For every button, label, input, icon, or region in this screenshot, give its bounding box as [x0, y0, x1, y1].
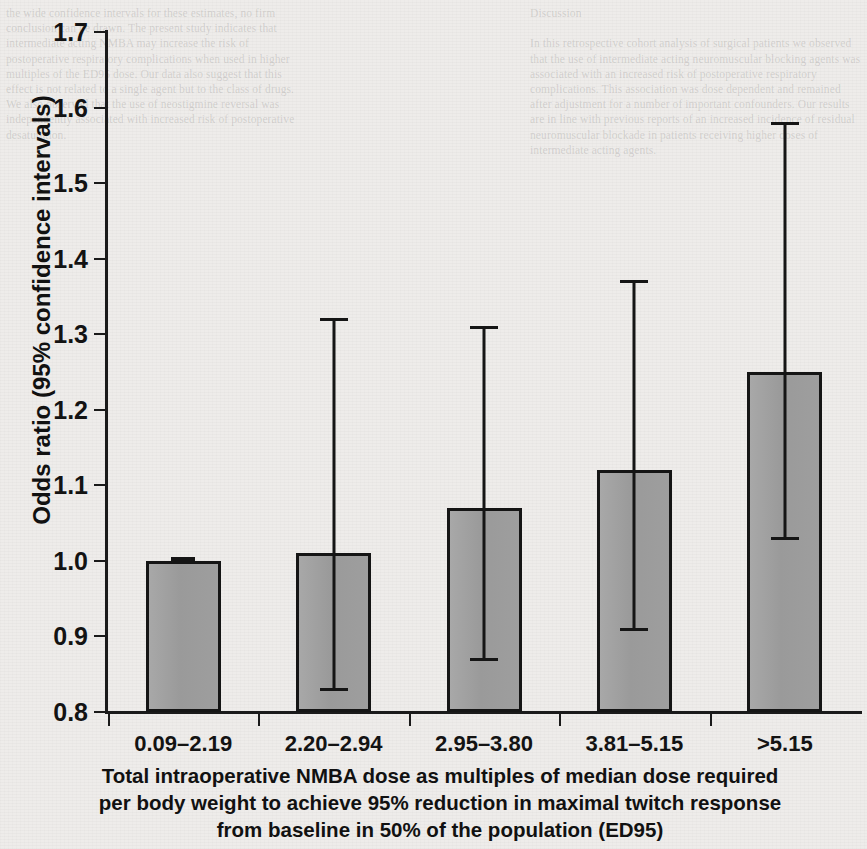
x-axis-tick-label: 0.09–2.19: [108, 731, 258, 757]
confidence-interval-lower-cap: [620, 628, 648, 631]
y-axis-tick: [94, 409, 106, 411]
x-axis-tick: [710, 713, 712, 726]
x-axis-caption-line: per body weight to achieve 95% reduction…: [60, 789, 820, 816]
confidence-interval-lower-cap: [320, 688, 348, 691]
y-axis-tick: [94, 182, 106, 184]
y-axis-tick: [94, 560, 106, 562]
confidence-interval-upper-cap: [320, 318, 348, 321]
confidence-interval-lower-cap: [771, 537, 799, 540]
y-axis-tick: [94, 333, 106, 335]
x-axis-caption-line: Total intraoperative NMBA dose as multip…: [60, 762, 820, 789]
y-axis-tick: [94, 484, 106, 486]
reference-marker: [171, 557, 195, 562]
y-axis-tick: [94, 258, 106, 260]
y-axis-tick: [94, 107, 106, 109]
y-axis-tick-label: 0.9: [0, 622, 88, 651]
x-axis-tick: [559, 713, 561, 726]
confidence-interval-lower-cap: [470, 658, 498, 661]
x-axis-tick: [258, 713, 260, 726]
y-axis-title: Odds ratio (95% confidence intervals): [28, 30, 56, 590]
y-axis-tick: [94, 635, 106, 637]
x-axis-tick: [409, 713, 411, 726]
odds-ratio-bar-chart: 1.71.61.51.41.31.21.11.00.90.8 0.09–2.19…: [0, 0, 867, 849]
x-axis-tick-label: 3.81–5.15: [559, 731, 709, 757]
x-axis-tick: [108, 713, 110, 726]
y-axis-tick-label: 0.8: [0, 698, 88, 727]
x-axis-caption-line: from baseline in 50% of the population (…: [60, 816, 820, 843]
x-axis-tick-label: 2.95–3.80: [409, 731, 559, 757]
y-axis-line: [105, 30, 108, 714]
y-axis-tick: [94, 31, 106, 33]
confidence-interval-line: [483, 327, 486, 659]
confidence-interval-line: [332, 319, 335, 689]
confidence-interval-line: [783, 123, 786, 539]
confidence-interval-upper-cap: [470, 326, 498, 329]
confidence-interval-upper-cap: [771, 122, 799, 125]
x-axis-tick-label: 2.20–2.94: [259, 731, 409, 757]
confidence-interval-line: [633, 281, 636, 629]
bar: [146, 561, 221, 712]
x-axis-caption: Total intraoperative NMBA dose as multip…: [60, 762, 820, 843]
bar-fill: [149, 564, 218, 709]
confidence-interval-upper-cap: [620, 280, 648, 283]
y-axis-tick: [94, 711, 106, 713]
x-axis-tick-label: >5.15: [710, 731, 860, 757]
